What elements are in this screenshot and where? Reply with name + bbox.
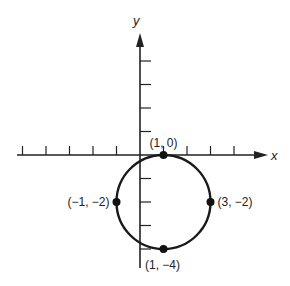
circle <box>117 155 211 249</box>
point-marker <box>160 151 168 159</box>
y-axis-label: y <box>132 13 141 28</box>
point-label: (1, 0) <box>149 136 177 150</box>
point-marker <box>113 198 121 206</box>
point-label: (3, −2) <box>218 195 253 209</box>
point-marker <box>160 245 168 253</box>
x-axis <box>17 146 268 159</box>
x-axis-arrow-icon <box>254 151 268 159</box>
y-axis <box>136 33 151 268</box>
point-marker <box>207 198 215 206</box>
circle-curve <box>117 155 211 249</box>
point-label: (−1, −2) <box>67 195 109 209</box>
point-label: (1, −4) <box>145 258 180 272</box>
y-axis-arrow-icon <box>136 33 144 47</box>
circle-diagram: (1, 0)(−1, −2)(3, −2)(1, −4) x y <box>0 0 290 286</box>
points: (1, 0)(−1, −2)(3, −2)(1, −4) <box>67 136 252 272</box>
x-axis-label: x <box>270 148 278 163</box>
